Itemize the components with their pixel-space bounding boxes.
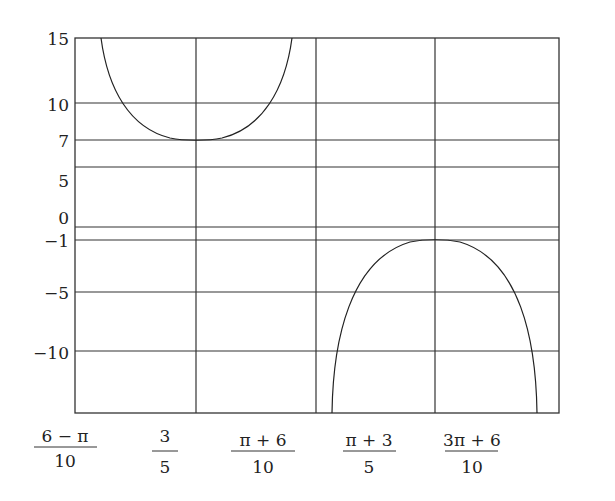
- x-label-pi-plus-3-over-5: π + 3 5: [343, 430, 396, 477]
- vertical-grid: [196, 38, 435, 413]
- svg-text:5: 5: [364, 457, 375, 477]
- x-label-3-over-5: 3 5: [152, 426, 178, 477]
- svg-text:10: 10: [54, 451, 76, 471]
- x-label-6-minus-pi-over-10: 6 − π 10: [34, 426, 97, 471]
- svg-text:3: 3: [160, 426, 171, 446]
- y-label-5: 5: [58, 171, 69, 191]
- svg-text:3π + 6: 3π + 6: [443, 430, 501, 450]
- horizontal-grid: [75, 103, 559, 351]
- y-label-7: 7: [58, 131, 69, 151]
- y-label-0: 0: [58, 208, 69, 228]
- svg-text:6 − π: 6 − π: [41, 426, 88, 446]
- svg-text:π + 3: π + 3: [345, 430, 392, 450]
- y-label-minus-1: −1: [44, 231, 69, 251]
- y-axis-labels: 15 10 7 5 0 −1 −5 −10: [33, 29, 69, 363]
- svg-text:π + 6: π + 6: [239, 430, 286, 450]
- svg-text:5: 5: [160, 457, 171, 477]
- svg-text:10: 10: [461, 457, 483, 477]
- y-label-minus-5: −5: [44, 283, 69, 303]
- y-label-minus-10: −10: [33, 343, 69, 363]
- cosecant-graph: 15 10 7 5 0 −1 −5 −10 6 − π 10 3 5 π + 6…: [0, 0, 615, 501]
- x-label-pi-plus-6-over-10: π + 6 10: [231, 430, 295, 477]
- plot-frame: [75, 38, 559, 413]
- svg-text:10: 10: [252, 457, 274, 477]
- y-label-10: 10: [47, 95, 69, 115]
- x-axis-labels: 6 − π 10 3 5 π + 6 10 π + 3 5 3π + 6 10: [34, 426, 501, 477]
- y-label-15: 15: [47, 29, 69, 49]
- x-label-3pi-plus-6-over-10: 3π + 6 10: [443, 430, 501, 477]
